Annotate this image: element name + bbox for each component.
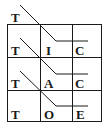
cell-r2-c2: A bbox=[44, 77, 53, 90]
cell-r3-c2: O bbox=[44, 108, 54, 121]
cell-r1-c3: C bbox=[75, 44, 84, 57]
tic-tac-toe-diagram: T T I C T A C T O E bbox=[0, 0, 109, 129]
cell-r1-c1: T bbox=[11, 44, 20, 57]
cell-r3-c1: T bbox=[11, 108, 20, 121]
cell-r2-c1: T bbox=[11, 77, 20, 90]
cell-r2-c3: C bbox=[75, 77, 84, 90]
connector-line-1 bbox=[20, 5, 88, 41]
cell-r3-c3: E bbox=[76, 108, 85, 121]
header-letter: T bbox=[11, 11, 20, 24]
cell-r1-c2: I bbox=[46, 44, 51, 57]
